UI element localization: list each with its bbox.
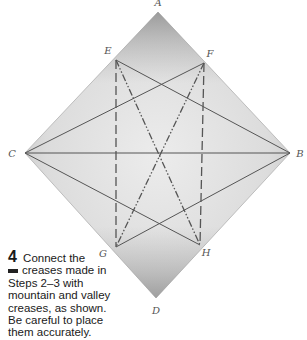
- step-number: 4: [8, 248, 17, 265]
- point-label-A: A: [153, 0, 161, 8]
- point-label-B: B: [295, 148, 303, 159]
- point-label-F: F: [206, 48, 215, 59]
- point-label-E: E: [103, 45, 112, 56]
- instruction-caption: 4 Connect the creases made in Steps 2–3 …: [8, 251, 118, 339]
- point-label-H: H: [201, 247, 211, 258]
- instruction-text: creases made in Steps 2–3 with mountain …: [8, 264, 110, 338]
- point-label-C: C: [8, 148, 16, 159]
- mountain-fold-symbol-icon: [8, 269, 18, 273]
- point-label-D: D: [151, 305, 160, 316]
- instruction-line1: Connect the: [23, 252, 85, 264]
